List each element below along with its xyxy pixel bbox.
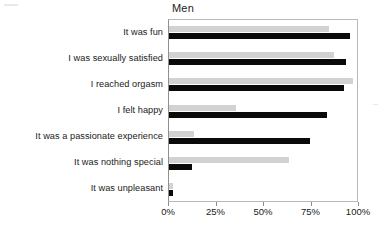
bar-group — [169, 183, 357, 196]
chart-container: Men It was funI was sexually satisfiedI … — [0, 0, 384, 236]
bar-group — [169, 52, 357, 65]
category-label: It was nothing special — [0, 157, 163, 167]
scan-artifact — [373, 104, 378, 105]
bar-coitus — [169, 164, 192, 170]
bar-masturbation — [169, 52, 334, 58]
bar-group — [169, 26, 357, 39]
bar-masturbation — [169, 26, 329, 32]
bar-coitus — [169, 112, 327, 118]
x-tick-label: 100% — [346, 206, 370, 217]
bars-container — [169, 20, 357, 201]
x-axis-labels: 0%25%50%75%100% — [0, 206, 384, 222]
bar-group — [169, 131, 357, 144]
bar-group — [169, 78, 357, 91]
bar-coitus — [169, 138, 310, 144]
category-label: I felt happy — [0, 105, 163, 115]
category-label: It was unpleasant — [0, 183, 163, 193]
category-axis-labels: It was funI was sexually satisfiedI reac… — [0, 19, 163, 202]
x-tick-label: 25% — [206, 206, 225, 217]
bar-coitus — [169, 85, 344, 91]
bar-coitus — [169, 59, 346, 65]
bar-masturbation — [169, 157, 289, 163]
bar-coitus — [169, 33, 350, 39]
x-tick-label: 50% — [253, 206, 272, 217]
category-label: I was sexually satisfied — [0, 53, 163, 63]
bar-masturbation — [169, 105, 236, 111]
bar-masturbation — [169, 78, 353, 84]
category-label: I reached orgasm — [0, 79, 163, 89]
scan-artifact — [4, 4, 18, 6]
bar-masturbation — [169, 131, 194, 137]
bar-masturbation — [169, 183, 173, 189]
x-tick-label: 0% — [161, 206, 175, 217]
bar-group — [169, 157, 357, 170]
category-label: It was a passionate experience — [0, 131, 163, 141]
chart-title: Men — [172, 2, 194, 14]
x-tick-label: 75% — [301, 206, 320, 217]
bar-group — [169, 105, 357, 118]
category-label: It was fun — [0, 27, 163, 37]
plot-area: masturbation coitus — [168, 19, 358, 202]
bar-coitus — [169, 190, 173, 196]
